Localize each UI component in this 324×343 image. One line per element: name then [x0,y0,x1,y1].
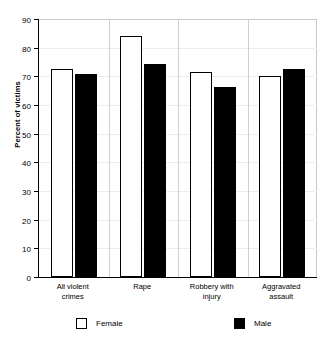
x-axis-category-label: Rape [108,282,178,292]
y-axis-tick: 40 [34,162,39,163]
black-square-icon [234,318,245,329]
white-square-icon [76,318,87,329]
group-separator [178,19,179,277]
bar-female-3 [259,76,281,277]
bar-female-2 [190,72,212,277]
legend-label: Female [96,319,123,328]
legend-label: Male [254,319,271,328]
y-axis-tick-label: 20 [22,216,31,225]
y-axis-tick-label: 30 [22,188,31,197]
y-axis-tick-label: 70 [22,73,31,82]
y-axis-tick-label: 0 [27,274,31,283]
bar-male-1 [144,64,166,277]
bar-female-0 [51,69,73,277]
bar-chart: Percent of victims 0102030405060708090 F… [0,0,324,343]
chart-legend: FemaleMale [38,318,316,338]
x-axis-category-label: All violent crimes [38,282,108,302]
plot-area: 0102030405060708090 [38,19,317,278]
y-axis-tick-label: 80 [22,44,31,53]
y-axis-tick: 70 [34,76,39,77]
group-separator [109,19,110,277]
bar-male-3 [283,69,305,277]
plot-frame-right [316,19,317,277]
legend-item-male[interactable]: Male [234,318,271,329]
legend-item-female[interactable]: Female [76,318,123,329]
bar-male-2 [214,87,236,277]
y-axis-tick-label: 10 [22,245,31,254]
bar-male-0 [75,74,97,277]
y-axis-tick: 90 [34,19,39,20]
y-axis-tick: 50 [34,134,39,135]
y-axis-tick-label: 90 [22,16,31,25]
y-axis-title: Percent of victims [13,60,22,170]
y-axis-tick: 20 [34,220,39,221]
y-axis-tick-label: 40 [22,159,31,168]
bar-female-1 [120,36,142,277]
group-separator [248,19,249,277]
y-axis-tick: 30 [34,191,39,192]
y-axis-tick: 80 [34,48,39,49]
y-axis-tick: 0 [34,277,39,278]
x-axis-category-label: Aggravated assault [247,282,317,302]
x-axis-category-label: Robbery with injury [177,282,247,302]
y-axis-tick: 10 [34,248,39,249]
y-axis-tick-label: 60 [22,102,31,111]
y-axis-tick-label: 50 [22,130,31,139]
y-axis-tick: 60 [34,105,39,106]
